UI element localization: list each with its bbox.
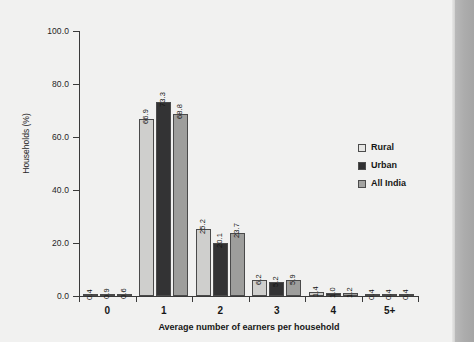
- x-axis-category-label-1: 1: [144, 305, 184, 316]
- bar-value-label: 6.2: [255, 274, 263, 285]
- bar-rural-2[interactable]: [196, 229, 211, 296]
- bar-value-label: 1.2: [346, 287, 354, 298]
- bar-value-label: 0.4: [86, 289, 94, 300]
- legend-label: Urban: [371, 161, 397, 170]
- y-axis-tick-label: 20.0: [27, 239, 69, 248]
- bar-value-label: 73.3: [159, 92, 167, 107]
- page-edge-shadow-band: [455, 0, 474, 342]
- x-axis-category-label-5plus: 5+: [370, 305, 410, 316]
- x-axis-category-label-2: 2: [200, 305, 240, 316]
- y-axis-tick-label: 60.0: [27, 133, 69, 142]
- bar-value-label: 0.4: [385, 289, 393, 300]
- bar-value-label: 5.9: [289, 275, 297, 286]
- legend-swatch-rural: [358, 144, 366, 152]
- bar-value-label: 0.9: [103, 288, 111, 299]
- bar-value-label: 23.7: [233, 223, 241, 238]
- bar-value-label: 0.4: [402, 289, 410, 300]
- bar-urban-2[interactable]: [213, 243, 228, 296]
- legend-label: All India: [371, 179, 406, 188]
- x-axis-tick-mark: [418, 296, 419, 302]
- bar-value-label: 0.6: [120, 289, 128, 300]
- bar-value-label: 1.0: [329, 288, 337, 299]
- bar-value-label: 68.8: [176, 104, 184, 119]
- bar-rural-1[interactable]: [139, 119, 154, 296]
- legend-label: Rural: [371, 143, 394, 152]
- legend-item-urban[interactable]: Urban: [358, 158, 436, 173]
- x-axis-tick-mark: [192, 296, 193, 302]
- x-axis-tick-mark: [136, 296, 137, 302]
- x-axis-tick-mark: [362, 296, 363, 302]
- y-axis-tick-label: 40.0: [27, 186, 69, 195]
- x-axis-tick-mark: [249, 296, 250, 302]
- bar-all-india-1[interactable]: [173, 114, 188, 296]
- y-axis-tick-label: 80.0: [27, 80, 69, 89]
- x-axis-category-label-4: 4: [313, 305, 353, 316]
- x-axis-title: Average number of earners per household: [79, 322, 419, 332]
- chart-legend: RuralUrbanAll India: [358, 140, 436, 194]
- bar-value-label: 25.2: [199, 219, 207, 234]
- legend-swatch-all-india: [358, 180, 366, 188]
- legend-item-rural[interactable]: Rural: [358, 140, 436, 155]
- y-axis-title: Households (%): [22, 89, 31, 199]
- bar-urban-1[interactable]: [156, 102, 171, 296]
- bar-value-label: 5.2: [272, 276, 280, 287]
- bar-value-label: 20.1: [216, 233, 224, 248]
- x-axis-tick-mark: [79, 296, 80, 302]
- chart-page: 0.020.040.060.080.0100.0 Households (%) …: [0, 0, 474, 342]
- legend-item-all-india[interactable]: All India: [358, 176, 436, 191]
- bar-value-label: 1.4: [312, 287, 320, 298]
- bar-all-india-2[interactable]: [230, 233, 245, 296]
- y-axis-tick-label: 0.0: [27, 292, 69, 301]
- x-axis-category-label-3: 3: [257, 305, 297, 316]
- x-axis-tick-mark: [305, 296, 306, 302]
- bar-value-label: 0.4: [368, 289, 376, 300]
- legend-swatch-urban: [358, 162, 366, 170]
- bar-value-label: 66.9: [142, 109, 150, 124]
- x-axis-category-label-0: 0: [87, 305, 127, 316]
- y-axis-tick-label: 100.0: [27, 27, 69, 36]
